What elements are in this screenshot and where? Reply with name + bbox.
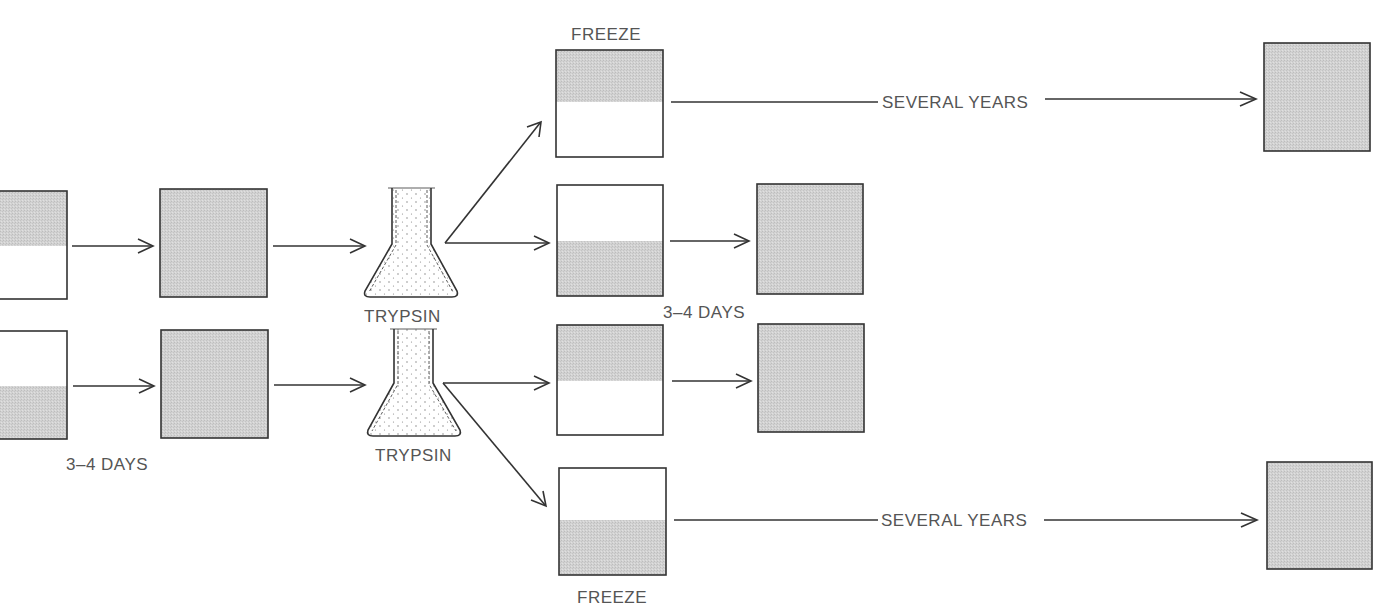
interval-label-row1: 3–4 DAYS <box>663 303 745 322</box>
arrow-icon <box>273 239 365 253</box>
arrow-icon <box>670 234 749 248</box>
arrow-icon <box>73 379 154 393</box>
subculture-top <box>557 185 663 296</box>
interval-label-row2: 3–4 DAYS <box>66 455 148 474</box>
subculture-bottom <box>557 325 663 435</box>
cell-culture-diagram: FREEZE SEVERAL YEARS TRYPSIN 3–4 DAYS 3–… <box>0 0 1390 611</box>
start-culture-bottom <box>0 331 67 439</box>
thawed-culture-top <box>1264 43 1370 151</box>
trypsin-flask-icon <box>365 188 458 297</box>
subculture-bottom-grown <box>758 324 864 432</box>
start-culture-top <box>0 191 67 299</box>
confluent-culture-bottom <box>161 330 268 438</box>
storage-label-top: SEVERAL YEARS <box>882 93 1028 112</box>
thawed-culture-bottom <box>1267 462 1372 569</box>
arrow-icon <box>672 374 751 388</box>
trypsin-label-top: TRYPSIN <box>364 307 441 326</box>
arrow-icon <box>445 236 549 250</box>
freeze-culture-top <box>556 50 663 157</box>
confluent-culture-top <box>160 189 267 297</box>
freeze-culture-bottom <box>559 468 666 575</box>
arrow-icon <box>443 383 546 506</box>
storage-label-bottom: SEVERAL YEARS <box>881 511 1027 530</box>
arrow-icon <box>72 239 153 253</box>
subculture-top-grown <box>757 184 863 294</box>
arrow-icon <box>445 122 541 243</box>
trypsin-label-bottom: TRYPSIN <box>375 446 452 465</box>
freeze-label-bottom: FREEZE <box>577 588 647 607</box>
arrow-icon <box>274 378 365 392</box>
freeze-label-top: FREEZE <box>571 25 641 44</box>
arrow-icon <box>443 376 549 390</box>
